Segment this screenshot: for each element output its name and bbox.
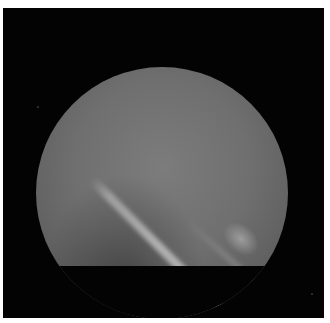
noise-speck [37, 106, 39, 108]
image-frame [3, 8, 324, 318]
field-bottom-cutoff [36, 266, 288, 318]
noise-speck [311, 293, 313, 295]
circular-field-of-view [36, 67, 288, 318]
